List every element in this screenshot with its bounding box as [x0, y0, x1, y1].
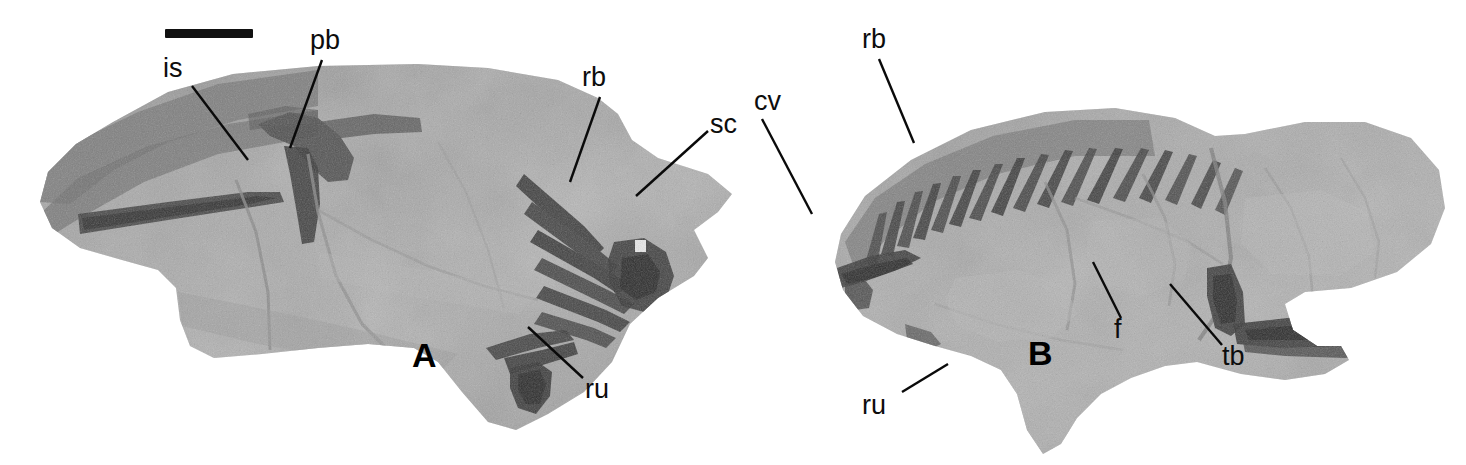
fossil-figure-plate: is pb rb sc ru cv rb f tb ru A B	[0, 0, 1466, 465]
annotation-label-rb-panel-b: rb	[862, 26, 886, 53]
annotation-label-sc: sc	[710, 111, 737, 138]
annotation-label-ru-panel-a: ru	[585, 376, 609, 403]
scale-bar	[165, 29, 253, 38]
annotation-label-ru-panel-b: ru	[862, 392, 886, 419]
annotation-label-cv: cv	[754, 88, 781, 115]
panel-letter-a: A	[412, 338, 437, 372]
annotation-label-pb: pb	[310, 27, 340, 54]
fossil-slab-panel-b	[745, 78, 1457, 460]
annotation-label-rb-panel-a: rb	[582, 64, 606, 91]
panel-letter-b: B	[1028, 336, 1053, 370]
annotation-label-is: is	[163, 55, 183, 82]
annotation-label-f: f	[1114, 316, 1122, 343]
fossil-slab-panel-a	[18, 62, 738, 434]
annotation-label-tb: tb	[1222, 343, 1245, 370]
